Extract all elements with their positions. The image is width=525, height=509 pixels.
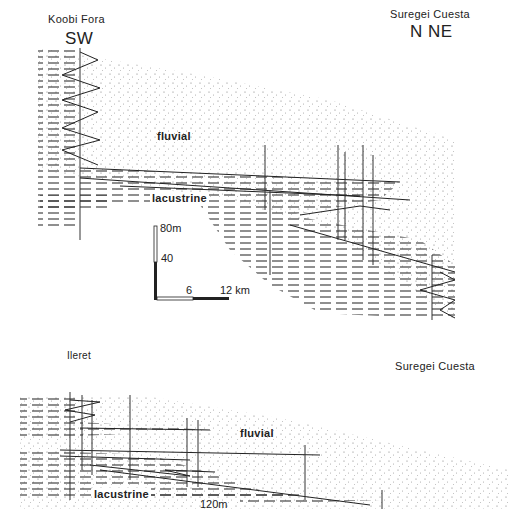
direction-nne: N NE: [410, 22, 453, 42]
facies-label-lacustrine-upper: lacustrine: [150, 192, 209, 204]
scale-vertical-40: 40: [161, 252, 173, 264]
scale-lower-120m: 120m: [200, 498, 228, 509]
locality-ileret: Ileret: [67, 350, 91, 361]
locality-koobi-fora: Koobi Fora: [48, 13, 105, 25]
facies-label-lacustrine-lower: lacustrine: [92, 488, 151, 500]
facies-label-fluvial-lower: fluvial: [240, 427, 274, 439]
direction-sw: SW: [65, 29, 93, 49]
scale-horizontal-12km: 12 km: [220, 284, 250, 296]
scale-vertical-80m: 80m: [160, 222, 181, 234]
locality-suregei-cuesta-upper: Suregei Cuesta: [390, 8, 470, 20]
locality-suregei-cuesta-lower: Suregei Cuesta: [395, 360, 475, 372]
scale-horizontal-6: 6: [186, 284, 192, 296]
facies-label-fluvial-upper: fluvial: [157, 130, 191, 142]
